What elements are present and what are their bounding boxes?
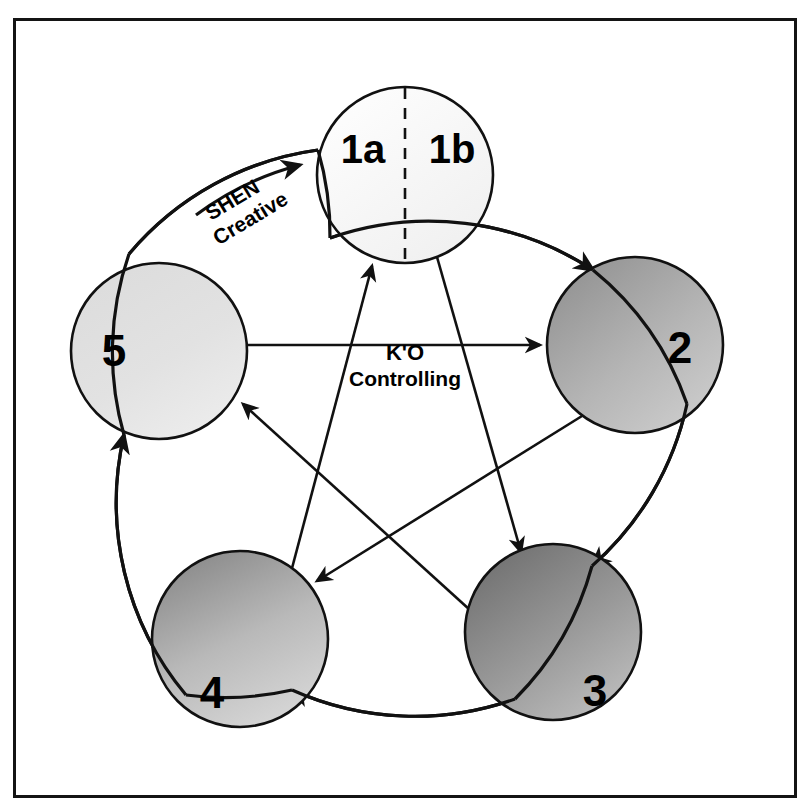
ko-cycle-name: K'O [386,340,424,365]
ko-cycle-subtitle: Controlling [349,367,461,390]
node-circles [71,87,723,727]
node-3-label: 3 [583,666,607,715]
diagram-stage: 1a 1b 2 3 4 5 K'O Controlling SHEN Creat… [0,0,810,810]
node-4-label: 4 [200,668,225,717]
node-2-label: 2 [668,323,692,372]
shen-cycle-label-group: SHEN Creative [196,165,292,249]
ko-edge-4-to-1 [291,266,372,572]
node-circle-2[interactable] [547,257,723,433]
node-circle-5[interactable] [71,263,247,439]
shen-edge-5-to-1-arrow-guide [250,184,306,186]
node-circle-3[interactable] [465,544,641,720]
five-element-cycle-diagram: 1a 1b 2 3 4 5 K'O Controlling SHEN Creat… [0,0,810,810]
node-1b-label: 1b [429,127,476,171]
node-5-label: 5 [102,326,126,375]
ko-edge-1-to-3 [437,257,521,552]
ko-cycle-label-group: K'O Controlling [349,340,461,390]
node-1a-label: 1a [341,127,386,171]
node-circle-4[interactable] [152,551,328,727]
